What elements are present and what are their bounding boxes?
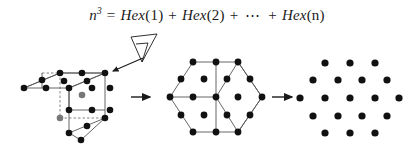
hex-dot <box>395 94 402 101</box>
hex-dot <box>334 112 341 119</box>
cube-dot <box>43 85 50 92</box>
hexagon-dot <box>178 76 185 83</box>
cube-dot <box>57 70 64 77</box>
hex-dot <box>346 94 353 101</box>
hex-dot <box>296 94 303 101</box>
hexagon-dot <box>213 129 220 136</box>
hexagon-dot <box>247 112 254 119</box>
cube-dot <box>89 107 96 114</box>
panel-cube-lattice <box>21 70 114 144</box>
hex-dot <box>371 59 378 66</box>
cube-notch-edges <box>42 73 105 110</box>
cube-dot <box>57 115 64 122</box>
hex-dot <box>383 76 390 83</box>
hexagon-dot <box>167 94 174 101</box>
hexagon-dot <box>201 76 208 83</box>
hex-dot <box>309 76 316 83</box>
hexagon-dot <box>235 59 242 66</box>
hex-dot <box>358 76 365 83</box>
cube-dot <box>107 107 114 114</box>
hex-dot <box>383 112 390 119</box>
cube-dot <box>79 92 86 99</box>
viewing-cone-icon <box>131 34 157 62</box>
hexagon-dot <box>224 76 231 83</box>
hex-dot <box>321 94 328 101</box>
cube-dot <box>89 85 96 92</box>
hexagon-dot <box>190 129 197 136</box>
cube-dot <box>61 78 68 85</box>
hexagon-dot <box>201 112 208 119</box>
cube-dot <box>102 115 109 122</box>
hex-dot <box>346 59 353 66</box>
cube-dot <box>84 78 91 85</box>
hexagon-dot <box>213 59 220 66</box>
hex-dot <box>346 129 353 136</box>
hex-dot <box>309 112 316 119</box>
cube-dot <box>78 137 85 144</box>
cube-dots <box>21 70 114 144</box>
cube-dot <box>79 70 86 77</box>
hex-dot <box>371 94 378 101</box>
hexagon-dot <box>213 94 220 101</box>
panel-hexagon-projection <box>167 59 266 136</box>
cube-dot <box>102 70 109 77</box>
hexagon-dot <box>178 112 185 119</box>
hex-dot <box>371 129 378 136</box>
cube-dot <box>39 77 46 84</box>
cube-dot <box>107 85 114 92</box>
hex-dot <box>334 76 341 83</box>
cube-dot <box>66 130 73 137</box>
cube-dot <box>66 85 73 92</box>
figure-root: n3 = Hex(1) + Hex(2) + ⋯ + Hex(n) <box>0 0 414 152</box>
hexagon-dot <box>259 94 266 101</box>
cube-dot <box>84 123 91 130</box>
hexagon-dot <box>190 94 197 101</box>
hexagon-dot <box>224 112 231 119</box>
viewpoint-pointer-arrow <box>113 58 143 71</box>
hex-dot <box>321 129 328 136</box>
hexagon-dot <box>247 76 254 83</box>
hexagon-dot <box>235 94 242 101</box>
hex-dot <box>358 112 365 119</box>
hex-dot <box>321 59 328 66</box>
cube-hidden-edges <box>42 73 105 118</box>
diagram-canvas <box>0 0 414 152</box>
hexagon-dot <box>235 129 242 136</box>
panel-hex-dots <box>296 59 402 136</box>
hexagon-dot <box>190 59 197 66</box>
cube-dot <box>21 85 28 92</box>
cube-dot <box>66 107 73 114</box>
